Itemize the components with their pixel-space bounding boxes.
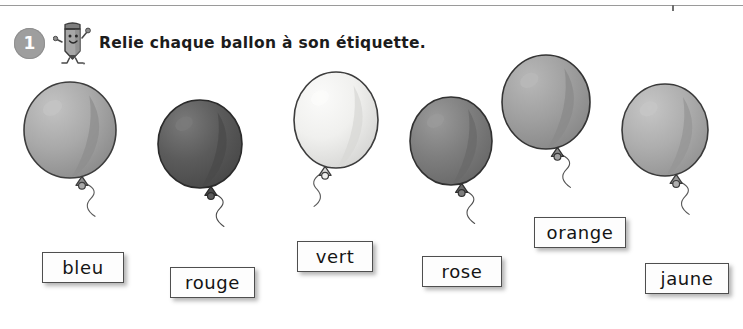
balloon-jaune[interactable] — [620, 80, 736, 222]
label-jaune[interactable]: jaune — [645, 263, 729, 294]
label-orange[interactable]: orange — [534, 217, 626, 248]
exercise-instruction: Relie chaque ballon à son étiquette. — [99, 34, 426, 52]
balloon-vert[interactable] — [292, 68, 406, 214]
worksheet-page: 1 — [0, 0, 743, 329]
label-jaune-text: jaune — [661, 270, 714, 288]
exercise-number-badge: 1 — [14, 28, 45, 59]
exercise-header: 1 — [14, 20, 426, 66]
pencil-mascot-icon — [53, 21, 93, 65]
page-top-rule — [0, 5, 743, 6]
label-rose-text: rose — [442, 263, 483, 281]
label-rouge[interactable]: rouge — [170, 267, 255, 298]
page-top-tick-mark — [672, 5, 674, 11]
label-vert[interactable]: vert — [297, 241, 373, 272]
label-rose[interactable]: rose — [422, 256, 502, 287]
label-vert-text: vert — [316, 248, 355, 266]
label-bleu[interactable]: bleu — [42, 252, 124, 283]
balloon-rouge[interactable] — [156, 96, 270, 234]
label-rouge-text: rouge — [185, 274, 240, 292]
balloon-bleu[interactable] — [22, 78, 144, 224]
label-bleu-text: bleu — [62, 259, 103, 277]
balloon-orange[interactable] — [500, 51, 618, 195]
label-orange-text: orange — [547, 224, 614, 242]
